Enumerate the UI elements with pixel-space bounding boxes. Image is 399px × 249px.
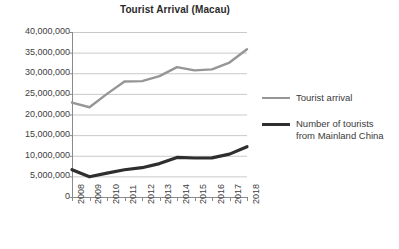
x-tick-label: 2015: [199, 184, 208, 204]
x-tick-label: 2018: [252, 184, 261, 204]
legend-entry[interactable]: Number of touristsfrom Mainland China: [262, 118, 399, 142]
x-tick-label: 2008: [77, 184, 86, 204]
legend-swatch-icon: [262, 123, 290, 126]
chart-container: Tourist Arrival (Macau) 05,000,00010,000…: [0, 0, 399, 249]
x-tick-label: 2010: [112, 184, 121, 204]
legend-entry[interactable]: Tourist arrival: [262, 92, 399, 104]
x-tick-label: 2014: [182, 184, 191, 204]
x-tick-label: 2011: [129, 185, 138, 204]
legend-label: Tourist arrival: [296, 92, 353, 104]
x-tick-label: 2013: [164, 184, 173, 204]
x-tick-label: 2009: [94, 184, 103, 204]
x-tick-label: 2012: [147, 184, 156, 204]
x-tick-label: 2016: [217, 184, 226, 204]
x-tick-label: 2017: [234, 184, 243, 204]
legend-swatch-icon: [262, 97, 290, 99]
chart-legend: Tourist arrivalNumber of touristsfrom Ma…: [262, 92, 399, 156]
legend-label: Number of touristsfrom Mainland China: [296, 118, 384, 142]
